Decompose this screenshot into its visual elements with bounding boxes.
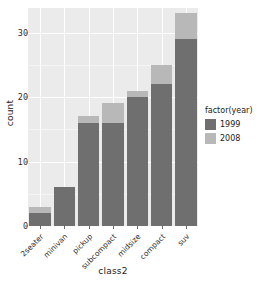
legend-swatch-2008	[205, 133, 216, 144]
bar-segment-minivan-1999	[54, 187, 75, 226]
bar-segment-suv-1999	[175, 39, 196, 226]
bar-segment-subcompact-2008	[102, 103, 123, 122]
bar-compact	[151, 8, 172, 226]
bar-midsize	[127, 8, 148, 226]
legend-label-1999: 1999	[220, 120, 240, 129]
x-tick-mark	[186, 226, 187, 229]
bar-segment-compact-1999	[151, 84, 172, 226]
legend-item-2008: 2008	[205, 132, 275, 145]
bar-segment-compact-2008	[151, 65, 172, 84]
legend-swatch-1999	[205, 119, 216, 130]
x-tick-mark	[40, 226, 41, 229]
bar-segment-2seater-2008	[29, 207, 50, 213]
bar-segment-subcompact-1999	[102, 123, 123, 226]
bar-segment-midsize-1999	[127, 97, 148, 226]
x-tick-label-suv: suv	[176, 232, 192, 248]
x-tick-mark	[89, 226, 90, 229]
bar-subcompact	[102, 8, 123, 226]
plot-panel	[28, 8, 198, 226]
bar-segment-pickup-1999	[78, 123, 99, 226]
x-tick-mark	[137, 226, 138, 229]
bar-2seater	[29, 8, 50, 226]
x-tick-mark	[162, 226, 163, 229]
legend: factor(year) 19992008	[205, 106, 275, 146]
x-tick-label-minivan: minivan	[42, 232, 70, 260]
legend-label-2008: 2008	[220, 134, 240, 143]
x-tick-label-compact: compact	[138, 232, 167, 261]
legend-entries: 19992008	[205, 118, 275, 145]
bar-segment-pickup-2008	[78, 116, 99, 122]
bar-suv	[175, 8, 196, 226]
y-axis: 0102030	[0, 0, 28, 286]
x-axis-tick-labels: 2seaterminivanpickupsubcompactmidsizecom…	[28, 226, 198, 266]
x-axis-title: class2	[28, 266, 198, 276]
x-tick-mark	[113, 226, 114, 229]
bar-segment-midsize-2008	[127, 91, 148, 97]
chart-root: count 0102030 2seaterminivanpickupsubcom…	[0, 0, 277, 286]
bar-minivan	[54, 8, 75, 226]
legend-title: factor(year)	[205, 106, 275, 115]
bar-segment-2seater-1999	[29, 213, 50, 226]
bar-segment-suv-2008	[175, 13, 196, 39]
bar-pickup	[78, 8, 99, 226]
legend-item-1999: 1999	[205, 118, 275, 131]
x-tick-mark	[64, 226, 65, 229]
